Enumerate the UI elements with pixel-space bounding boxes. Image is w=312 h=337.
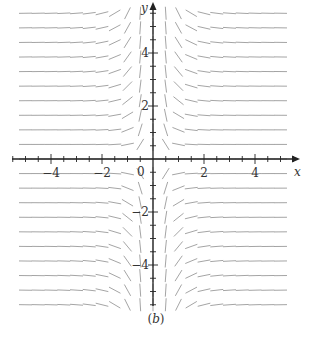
slope-segment	[109, 301, 120, 308]
slope-segment	[165, 36, 166, 49]
slope-segment	[124, 22, 130, 33]
slope-segment	[108, 187, 121, 189]
slope-segment	[164, 109, 167, 122]
slope-segment	[96, 217, 109, 218]
slope-segment	[70, 71, 83, 72]
slope-segment	[108, 144, 121, 145]
slope-segment	[210, 42, 223, 43]
slope-segment	[236, 290, 249, 291]
slope-segment	[210, 100, 223, 101]
slope-segment	[96, 100, 109, 101]
slope-segment	[109, 230, 121, 234]
slope-segment	[173, 97, 183, 105]
slope-segment	[172, 172, 185, 175]
slope-segment	[138, 182, 142, 194]
origin-label: 0	[137, 165, 145, 179]
slope-segment	[198, 303, 211, 306]
y-tick-label: 4	[141, 46, 149, 60]
slope-segment	[96, 260, 109, 262]
slope-segment	[96, 56, 109, 58]
slope-segment	[124, 284, 130, 295]
slope-segment	[108, 202, 121, 204]
slope-segment	[83, 86, 96, 87]
slope-segment	[198, 41, 211, 44]
slope-segment	[83, 100, 96, 101]
slope-segment	[210, 289, 223, 290]
slope-segment	[96, 303, 109, 306]
slope-segment	[83, 27, 96, 28]
x-tick-label: 4	[251, 166, 259, 180]
slope-segment	[121, 186, 133, 191]
slope-segment	[165, 269, 166, 282]
slope-segment	[210, 275, 223, 276]
slope-segment	[174, 241, 182, 251]
slope-segment	[165, 240, 166, 253]
slope-segment	[223, 290, 236, 291]
slope-segment	[96, 245, 109, 247]
axes	[12, 2, 300, 306]
x-axis-label: x	[294, 165, 301, 179]
caption-close-paren: )	[160, 312, 165, 326]
slope-segment	[198, 85, 211, 87]
slope-segment	[210, 27, 223, 28]
slope-segment	[173, 213, 183, 221]
slope-segment	[83, 12, 96, 14]
slope-segment	[109, 69, 121, 73]
slope-segment	[236, 28, 249, 29]
x-tick-label: 2	[200, 166, 208, 180]
slope-segment	[210, 56, 223, 57]
slope-segment	[96, 71, 109, 73]
slope-segment	[96, 26, 109, 29]
slope-segment	[223, 42, 236, 43]
slope-segment	[185, 273, 197, 279]
slope-segment	[223, 13, 236, 14]
slope-segment	[96, 188, 109, 189]
slope-segment	[125, 7, 131, 19]
slope-segment	[70, 246, 83, 247]
slope-segment	[198, 12, 211, 15]
slope-segment	[162, 139, 169, 150]
slope-segment	[165, 284, 166, 297]
slope-segment	[210, 304, 223, 306]
slope-segment	[198, 202, 211, 203]
slope-segment	[186, 10, 197, 17]
slope-segment	[121, 127, 133, 132]
slope-segment	[185, 216, 198, 219]
slope-segment	[210, 217, 223, 218]
slope-segment	[198, 217, 211, 218]
slope-segment	[123, 241, 131, 251]
slope-segment	[83, 304, 96, 306]
slope-segment	[70, 13, 83, 14]
slope-segment	[210, 231, 223, 232]
slope-segment	[123, 67, 131, 77]
slope-segment	[70, 275, 83, 276]
slope-segment	[124, 270, 131, 281]
slope-segment	[223, 71, 236, 72]
slope-segment	[164, 182, 168, 194]
slope-segment	[125, 299, 131, 311]
slope-segment	[172, 143, 185, 146]
y-tick-label: −2	[131, 205, 149, 219]
slope-segment	[83, 246, 96, 247]
slope-segment	[83, 42, 96, 43]
slope-segment	[198, 100, 211, 101]
slope-segment	[137, 139, 144, 150]
slope-segment	[185, 84, 197, 88]
slope-segment	[185, 144, 198, 145]
slope-segment	[198, 231, 211, 233]
slope-segment	[198, 56, 211, 58]
slope-segment	[174, 82, 183, 91]
slope-segment	[198, 71, 211, 73]
slope-segment	[96, 231, 109, 233]
slope-segment	[176, 7, 182, 19]
slope-segment	[122, 112, 133, 119]
slope-segment	[109, 40, 121, 46]
slope-segment	[96, 41, 109, 44]
slope-segment	[174, 227, 183, 236]
slope-segment	[185, 54, 197, 59]
slope-segment	[176, 299, 182, 311]
slope-segment	[175, 270, 182, 281]
slope-segment	[165, 298, 166, 311]
slope-segment	[210, 260, 223, 261]
slope-segment	[109, 287, 120, 293]
